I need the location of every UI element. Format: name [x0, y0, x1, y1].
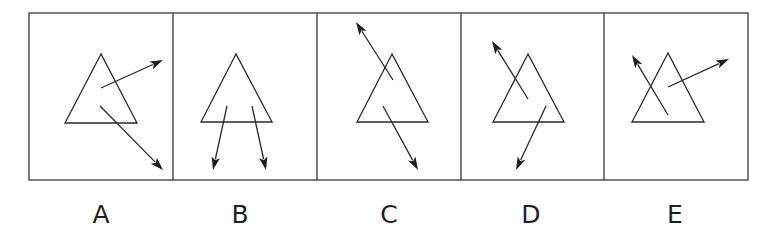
arrow-shaft: [215, 106, 227, 159]
option-panel-e[interactable]: E: [632, 53, 729, 229]
arrow-down-right: [383, 106, 418, 170]
triangle: [201, 54, 272, 122]
option-figure: A B C D E: [0, 0, 767, 233]
panels-frame: [29, 13, 748, 180]
arrowhead-icon: [492, 41, 502, 54]
arrow-down-left: [516, 106, 546, 170]
option-panel-c[interactable]: C: [356, 22, 428, 229]
triangle: [632, 53, 704, 122]
arrowhead-icon: [516, 156, 525, 170]
option-label-d: D: [521, 200, 540, 229]
option-label-b: B: [231, 200, 248, 229]
option-label-c: C: [380, 200, 397, 229]
triangle: [65, 54, 137, 123]
arrow-up-right: [668, 59, 729, 87]
arrowhead-icon: [356, 22, 367, 35]
arrow-down-right: [252, 106, 267, 170]
option-panel-a[interactable]: A: [65, 54, 163, 229]
arrow-down-right: [100, 106, 163, 170]
arrowhead-icon: [408, 157, 418, 170]
triangle: [493, 54, 564, 122]
option-label-e: E: [667, 200, 683, 229]
arrow-shaft: [498, 50, 528, 99]
arrow-shaft: [252, 106, 264, 159]
arrow-down-left: [212, 106, 227, 170]
arrow-up-left: [356, 22, 393, 80]
triangle: [357, 54, 428, 122]
arrow-shaft: [100, 106, 155, 162]
arrow-shaft: [638, 64, 668, 115]
arrow-shaft: [383, 106, 413, 160]
option-panel-b[interactable]: B: [201, 54, 272, 229]
arrow-shaft: [362, 31, 393, 80]
arrow-up-right: [101, 60, 163, 88]
arrowhead-icon: [632, 55, 642, 68]
option-panel-d[interactable]: D: [492, 41, 564, 229]
option-label-a: A: [92, 200, 109, 229]
arrow-shaft: [521, 106, 546, 160]
